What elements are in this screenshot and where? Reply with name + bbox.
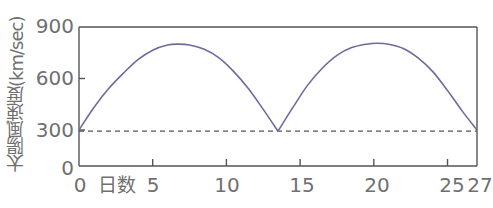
x-tick-15: 15: [289, 174, 314, 196]
y-tick-0: 0: [61, 158, 74, 178]
y-tick-300: 300: [36, 120, 74, 140]
x-axis-label: 日数: [98, 174, 136, 196]
y-tick-900: 900: [36, 16, 74, 36]
x-tick-10: 10: [214, 174, 239, 196]
solar-wind-speed-line: [79, 43, 477, 131]
y-tick-600: 600: [36, 68, 74, 88]
axes: [79, 27, 477, 166]
x-tick-0: 0: [74, 174, 87, 196]
x-tick-27: 27: [467, 174, 492, 196]
x-tick-5: 5: [147, 174, 160, 196]
x-tick-20: 20: [364, 174, 389, 196]
y-axis-label: 太陽風速度(km/sec): [4, 8, 30, 180]
x-tick-25: 25: [439, 174, 464, 196]
